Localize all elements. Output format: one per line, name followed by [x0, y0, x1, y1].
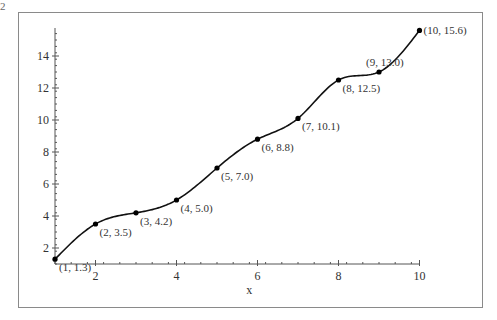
- data-point-label: (8, 12.5): [343, 82, 381, 95]
- data-point-marker: [214, 165, 219, 170]
- spline-curve: [55, 30, 420, 259]
- x-tick-label: 6: [255, 269, 261, 283]
- data-point-marker: [417, 28, 422, 33]
- data-point-marker: [376, 69, 381, 74]
- y-tick-label: 6: [43, 177, 49, 191]
- x-tick-label: 4: [174, 269, 180, 283]
- data-point-label: (3, 4.2): [140, 215, 172, 228]
- data-point-marker: [255, 137, 260, 142]
- data-point-label: (4, 5.0): [181, 202, 213, 215]
- y-tick-label: 2: [43, 241, 49, 255]
- data-point-label: (2, 3.5): [100, 226, 132, 239]
- data-point-marker: [295, 116, 300, 121]
- data-point-marker: [174, 197, 179, 202]
- x-tick-label: 10: [414, 269, 426, 283]
- y-tick-label: 14: [37, 49, 49, 63]
- data-point-label: (10, 15.6): [424, 24, 467, 37]
- data-point-label: (7, 10.1): [302, 120, 340, 133]
- data-points: (1, 1.3)(2, 3.5)(3, 4.2)(4, 5.0)(5, 7.0)…: [52, 24, 467, 274]
- y-tick-label: 10: [37, 113, 49, 127]
- y-tick-label: 12: [37, 81, 49, 95]
- y-tick-label: 4: [43, 209, 49, 223]
- line-chart: 2468102468101214 (1, 1.3)(2, 3.5)(3, 4.2…: [0, 0, 497, 320]
- data-point-marker: [336, 77, 341, 82]
- x-axis-title: x: [246, 283, 252, 297]
- x-tick-label: 2: [93, 269, 99, 283]
- y-tick-label: 8: [43, 145, 49, 159]
- data-point-marker: [93, 221, 98, 226]
- data-point-marker: [52, 257, 57, 262]
- data-point-label: (1, 1.3): [59, 261, 91, 274]
- curve: [55, 30, 420, 259]
- data-point-label: (9, 13.0): [366, 56, 404, 69]
- data-point-label: (6, 8.8): [262, 141, 294, 154]
- data-point-marker: [133, 210, 138, 215]
- data-point-label: (5, 7.0): [221, 170, 253, 183]
- x-tick-label: 8: [336, 269, 342, 283]
